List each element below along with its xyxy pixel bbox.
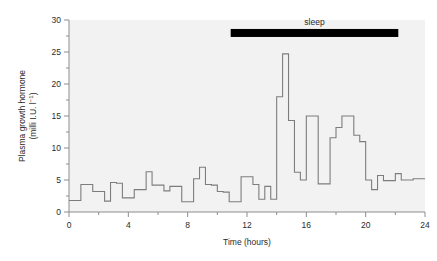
y-axis-title-line1: Plasma growth hormone [17, 70, 27, 162]
y-tick-label: 5 [56, 175, 61, 185]
sleep-period-bar [231, 29, 399, 37]
x-tick-label: 24 [420, 220, 430, 230]
x-tick-label: 16 [302, 220, 312, 230]
y-tick-label: 15 [52, 111, 62, 121]
y-tick-label: 30 [52, 15, 62, 25]
x-tick-label: 4 [126, 220, 131, 230]
y-tick-label: 10 [52, 143, 62, 153]
y-tick-label: 25 [52, 47, 62, 57]
y-axis-title-group: Plasma growth hormone (milli I.U. l−1) [17, 70, 38, 162]
x-axis-title: Time (hours) [223, 237, 271, 247]
sleep-label: sleep [304, 17, 325, 27]
x-tick-label: 0 [67, 220, 72, 230]
y-tick-label: 0 [56, 207, 61, 217]
x-tick-label: 20 [361, 220, 371, 230]
y-axis-tick-labels: 051015202530 [52, 15, 62, 217]
growth-hormone-chart-figure: sleep 04812162024 051015202530 Time (hou… [0, 0, 437, 261]
y-tick-label: 20 [52, 79, 62, 89]
y-axis-title-line2: (milli I.U. l−1) [27, 92, 38, 139]
x-axis-tick-labels: 04812162024 [67, 220, 430, 230]
chart-canvas: sleep 04812162024 051015202530 Time (hou… [0, 0, 437, 261]
x-tick-label: 12 [242, 220, 252, 230]
x-tick-label: 8 [185, 220, 190, 230]
